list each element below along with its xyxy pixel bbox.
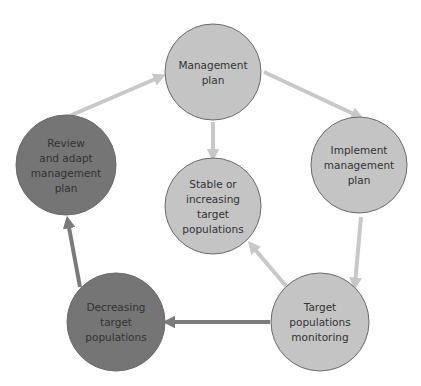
- node-circle: [16, 115, 116, 215]
- node-label-line: Target: [303, 301, 336, 313]
- node-label-line: populations: [85, 331, 146, 343]
- arrow-decreasing-target-populations-to-review-and-adapt: [68, 222, 80, 287]
- node-label-line: Review: [47, 137, 85, 149]
- node-label-line: target: [100, 316, 132, 328]
- node-management-plan: Managementplan: [165, 24, 261, 120]
- arrow-management-plan-to-implement-management-plan: [264, 72, 358, 116]
- node-label-line: Stable or: [189, 178, 237, 190]
- node-label-line: Decreasing: [86, 301, 145, 313]
- node-label-line: Management: [178, 59, 247, 71]
- node-label-line: increasing: [186, 193, 240, 205]
- node-label-line: monitoring: [291, 331, 348, 343]
- node-label-line: management: [31, 167, 101, 179]
- node-circle: [165, 24, 261, 120]
- node-label-line: plan: [348, 174, 371, 186]
- arrow-review-and-adapt-to-management-plan: [67, 77, 160, 117]
- node-implement-management-plan: Implementmanagementplan: [311, 117, 407, 213]
- node-label-line: populations: [289, 316, 350, 328]
- node-label-line: Implement: [331, 144, 388, 156]
- node-label-line: populations: [182, 223, 243, 235]
- node-decreasing-target-populations: Decreasingtargetpopulations: [67, 273, 165, 371]
- node-label-line: and adapt: [39, 152, 92, 164]
- node-target-populations-monitoring: Targetpopulationsmonitoring: [271, 273, 369, 371]
- node-label-line: plan: [55, 182, 78, 194]
- nodes-layer: ManagementplanImplementmanagementplanSta…: [16, 24, 407, 371]
- node-label-line: target: [197, 208, 229, 220]
- node-review-and-adapt: Reviewand adaptmanagementplan: [16, 115, 116, 215]
- node-label-line: plan: [202, 74, 225, 86]
- node-stable-or-increasing: Stable orincreasingtargetpopulations: [165, 158, 261, 254]
- cycle-diagram: ManagementplanImplementmanagementplanSta…: [0, 0, 421, 386]
- node-label-line: management: [324, 159, 394, 171]
- arrow-implement-management-plan-to-target-populations-monitoring: [355, 217, 361, 284]
- arrow-target-populations-monitoring-to-stable-or-increasing: [252, 246, 286, 286]
- node-circle: [165, 158, 261, 254]
